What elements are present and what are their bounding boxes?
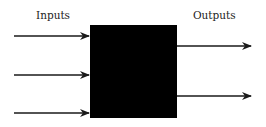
outputs-label: Outputs (193, 9, 236, 21)
inputs-label: Inputs (36, 9, 70, 21)
black-box-diagram: Inputs Outputs (0, 0, 266, 127)
black-box (90, 25, 177, 118)
